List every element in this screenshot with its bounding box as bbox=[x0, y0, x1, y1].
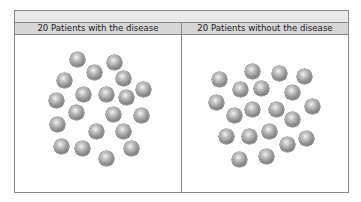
patient-sphere-with-disease bbox=[116, 124, 131, 139]
patient-sphere-with-disease bbox=[99, 87, 114, 102]
patient-sphere-without-disease bbox=[227, 108, 242, 123]
column-divider bbox=[181, 35, 182, 192]
patient-sphere-with-disease bbox=[89, 124, 104, 139]
patient-sphere-with-disease bbox=[99, 151, 114, 166]
patient-sphere-with-disease bbox=[49, 93, 64, 108]
patient-sphere-with-disease bbox=[106, 107, 121, 122]
patient-sphere-with-disease bbox=[54, 139, 69, 154]
patient-sphere-with-disease bbox=[107, 55, 122, 70]
table-top-row bbox=[15, 11, 348, 23]
patient-sphere-without-disease bbox=[297, 69, 312, 84]
header-without-disease: 20 Patients without the disease bbox=[182, 23, 348, 35]
patient-sphere-without-disease bbox=[245, 64, 260, 79]
header-with-disease: 20 Patients with the disease bbox=[15, 23, 182, 35]
patient-sphere-with-disease bbox=[134, 108, 149, 123]
patient-sphere-without-disease bbox=[242, 129, 257, 144]
patient-sphere-with-disease bbox=[50, 117, 65, 132]
patient-sphere-with-disease bbox=[124, 141, 139, 156]
patient-sphere-without-disease bbox=[305, 99, 320, 114]
patient-sphere-without-disease bbox=[245, 102, 260, 117]
patient-sphere-with-disease bbox=[57, 73, 72, 88]
patients-table: 20 Patients with the disease 20 Patients… bbox=[14, 10, 349, 193]
patient-sphere-without-disease bbox=[285, 112, 300, 127]
patient-sphere-without-disease bbox=[285, 85, 300, 100]
patient-sphere-without-disease bbox=[232, 152, 247, 167]
patient-sphere-without-disease bbox=[219, 129, 234, 144]
patient-sphere-without-disease bbox=[254, 81, 269, 96]
patient-sphere-without-disease bbox=[212, 72, 227, 87]
patient-sphere-without-disease bbox=[262, 124, 277, 139]
patient-sphere-with-disease bbox=[136, 82, 151, 97]
patient-sphere-with-disease bbox=[76, 87, 91, 102]
patient-sphere-with-disease bbox=[116, 71, 131, 86]
patient-sphere-without-disease bbox=[280, 137, 295, 152]
patient-sphere-without-disease bbox=[299, 131, 314, 146]
patient-sphere-with-disease bbox=[87, 65, 102, 80]
patient-sphere-without-disease bbox=[259, 149, 274, 164]
patient-sphere-without-disease bbox=[209, 95, 224, 110]
patient-sphere-with-disease bbox=[69, 105, 84, 120]
patient-sphere-without-disease bbox=[269, 102, 284, 117]
patient-sphere-with-disease bbox=[119, 90, 134, 105]
patient-sphere-without-disease bbox=[272, 66, 287, 81]
patient-sphere-without-disease bbox=[233, 82, 248, 97]
patient-sphere-with-disease bbox=[75, 141, 90, 156]
patient-sphere-with-disease bbox=[70, 52, 85, 67]
